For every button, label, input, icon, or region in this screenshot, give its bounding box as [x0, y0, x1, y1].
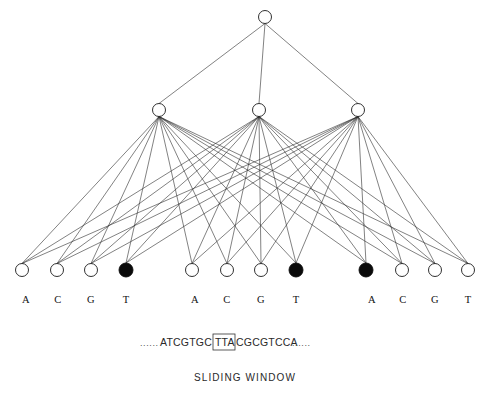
edge-input-hidden: [261, 117, 358, 264]
output-node: [259, 11, 272, 24]
edge-input-hidden: [259, 117, 261, 264]
base-label-C: C: [54, 294, 61, 305]
base-labels-group: ACGTACGTACGT: [22, 294, 472, 305]
input-node-C: [221, 264, 234, 277]
neural-network-figure: ACGTACGTACGT ...... ATCGTGC TTA CGCGTCCA…: [0, 0, 490, 399]
input-node-T: [119, 263, 133, 277]
edge-input-hidden: [126, 117, 259, 264]
input-node-G: [255, 264, 268, 277]
base-label-C: C: [223, 294, 230, 305]
input-node-G: [429, 264, 442, 277]
edge-input-hidden: [91, 117, 259, 264]
edge-input-hidden: [159, 117, 435, 264]
edge-input-hidden: [296, 117, 358, 264]
edge-input-hidden: [227, 117, 259, 264]
edge-input-hidden: [159, 117, 261, 264]
base-label-G: G: [257, 294, 265, 305]
hidden-nodes-group: [153, 104, 365, 117]
sequence-group: ...... ATCGTGC TTA CGCGTCCA ......: [140, 334, 311, 350]
input-node-G: [85, 264, 98, 277]
hidden-node: [153, 104, 166, 117]
edge-input-hidden: [192, 117, 259, 264]
hidden-node: [253, 104, 266, 117]
base-label-T: T: [293, 294, 300, 305]
input-node-A: [186, 264, 199, 277]
edge-hidden-output: [259, 24, 265, 104]
input-node-A: [359, 263, 373, 277]
input-node-T: [289, 263, 303, 277]
base-label-A: A: [368, 294, 376, 305]
sequence-window-text: TTA: [215, 336, 235, 348]
input-nodes-group: [16, 263, 475, 277]
edge-input-hidden: [126, 117, 358, 264]
edge-input-hidden: [22, 117, 259, 264]
sequence-suffix: CGCGTCCA: [236, 336, 298, 348]
input-node-T: [462, 264, 475, 277]
sequence-prefix: ATCGTGC: [160, 336, 212, 348]
base-label-T: T: [465, 294, 472, 305]
sliding-window-label: SLIDING WINDOW: [194, 372, 296, 383]
edge-input-hidden: [259, 117, 435, 264]
output-nodes-group: [259, 11, 272, 24]
edges-hidden-to-output: [159, 24, 358, 104]
edge-input-hidden: [22, 117, 159, 264]
input-node-A: [16, 264, 29, 277]
edges-input-to-hidden: [22, 117, 468, 264]
hidden-node: [352, 104, 365, 117]
edge-input-hidden: [159, 117, 192, 264]
edge-input-hidden: [91, 117, 358, 264]
edge-input-hidden: [126, 117, 159, 264]
edge-input-hidden: [91, 117, 159, 264]
edge-input-hidden: [358, 117, 435, 264]
base-label-G: G: [431, 294, 439, 305]
network-diagram-svg: ACGTACGTACGT ...... ATCGTGC TTA CGCGTCCA…: [0, 0, 490, 399]
base-label-C: C: [399, 294, 406, 305]
edge-input-hidden: [227, 117, 358, 264]
base-label-A: A: [191, 294, 199, 305]
sequence-left-ellipsis: ......: [140, 338, 159, 348]
edge-input-hidden: [57, 117, 259, 264]
sequence-right-ellipsis: ......: [292, 338, 311, 348]
edge-hidden-output: [159, 24, 265, 104]
edge-input-hidden: [358, 117, 468, 264]
base-label-A: A: [22, 294, 30, 305]
base-label-G: G: [87, 294, 95, 305]
input-node-C: [51, 264, 64, 277]
input-node-C: [396, 264, 409, 277]
edge-hidden-output: [265, 24, 358, 104]
base-label-T: T: [123, 294, 130, 305]
